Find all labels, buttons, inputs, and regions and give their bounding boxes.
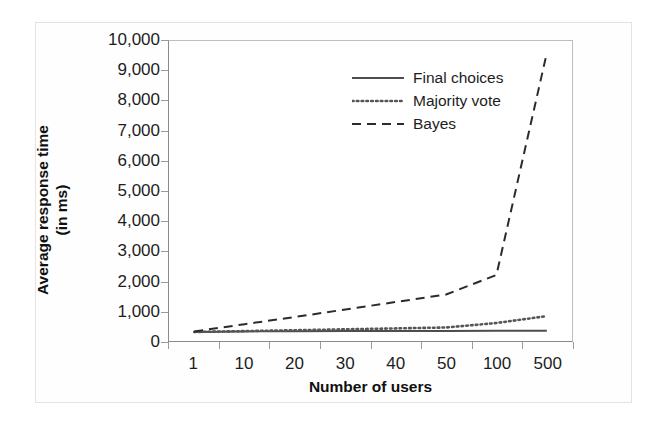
y-axis-title-line-2: (in ms) <box>52 95 71 325</box>
y-axis-tick-mark <box>161 312 168 313</box>
legend-item-final-choices[interactable]: Final choices <box>352 66 520 89</box>
line-chart: Average response time (in ms) 10,0009,00… <box>0 0 666 424</box>
y-axis-tick-label: 0 <box>151 333 160 350</box>
legend-swatch-solid-icon <box>352 72 404 84</box>
legend-label: Final choices <box>413 70 503 86</box>
y-axis-tick-mark <box>161 221 168 222</box>
legend-item-bayes[interactable]: Bayes <box>352 112 520 135</box>
y-axis-tick-label: 9,000 <box>117 61 160 78</box>
y-axis-tick-mark <box>161 131 168 132</box>
y-axis-tick-label: 4,000 <box>117 212 160 229</box>
legend-swatch-dotted-icon <box>352 95 404 107</box>
legend-swatch-dashed-icon <box>352 118 404 130</box>
legend-label: Majority vote <box>413 93 501 109</box>
y-axis-tick-mark <box>161 282 168 283</box>
x-axis-title: Number of users <box>168 378 573 396</box>
legend-label: Bayes <box>413 116 456 132</box>
y-axis-tick-mark <box>161 70 168 71</box>
x-axis-tick-label: 500 <box>518 355 578 373</box>
y-axis-title-line-1: Average response time <box>33 95 52 325</box>
legend-item-majority-vote[interactable]: Majority vote <box>352 89 520 112</box>
y-axis-tick-label: 3,000 <box>117 242 160 259</box>
chart-legend: Final choicesMajority voteBayes <box>352 66 520 135</box>
y-axis-tick-label: 5,000 <box>117 182 160 199</box>
x-axis-tick-mark <box>472 342 473 349</box>
y-axis-tick-label: 6,000 <box>117 152 160 169</box>
x-axis-tick-mark <box>168 342 169 349</box>
y-axis-tick-label: 10,000 <box>108 31 160 48</box>
x-axis-tick-mark <box>371 342 372 349</box>
x-axis-tick-mark <box>421 342 422 349</box>
x-axis-tick-mark <box>269 342 270 349</box>
y-axis-tick-mark <box>161 342 168 343</box>
x-axis-tick-mark <box>573 342 574 349</box>
y-axis-tick-label: 7,000 <box>117 122 160 139</box>
y-axis-tick-mark <box>161 161 168 162</box>
y-axis-tick-mark <box>161 191 168 192</box>
y-axis-tick-label: 2,000 <box>117 273 160 290</box>
x-axis-tick-mark <box>320 342 321 349</box>
y-axis-tick-labels: 10,0009,0008,0007,0006,0005,0004,0003,00… <box>88 0 160 424</box>
y-axis-tick-mark <box>161 40 168 41</box>
y-axis-tick-label: 8,000 <box>117 91 160 108</box>
y-axis-tick-mark <box>161 251 168 252</box>
y-axis-tick-label: 1,000 <box>117 303 160 320</box>
x-axis-tick-mark <box>522 342 523 349</box>
y-axis-title: Average response time (in ms) <box>33 95 71 325</box>
y-axis-tick-mark <box>161 100 168 101</box>
x-axis-tick-mark <box>219 342 220 349</box>
